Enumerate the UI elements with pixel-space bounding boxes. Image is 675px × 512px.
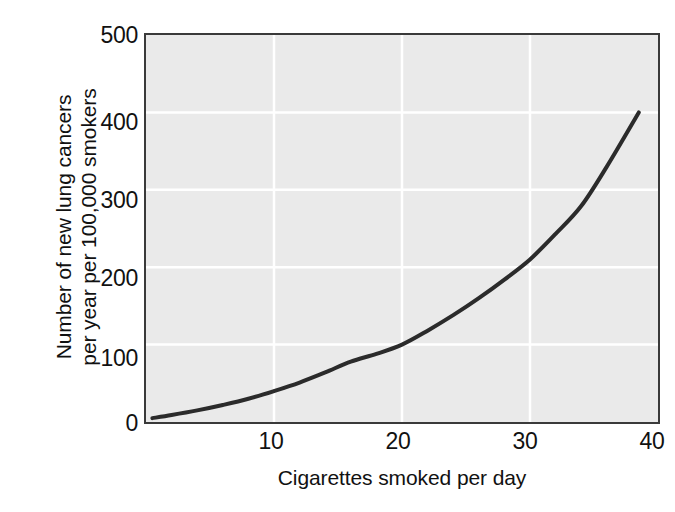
y-axis-tick-labels: 500 400 300 200 100 0	[82, 0, 138, 512]
y-tick-100: 100	[82, 345, 138, 372]
plot-svg	[146, 35, 658, 422]
y-tick-400: 400	[82, 109, 138, 136]
x-tick-10: 10	[259, 428, 284, 455]
gridlines	[146, 35, 658, 422]
x-axis-label: Cigarettes smoked per day	[144, 466, 660, 490]
chart-figure: Number of new lung cancers per year per …	[0, 0, 675, 512]
y-tick-200: 200	[82, 265, 138, 292]
y-tick-0: 0	[82, 410, 138, 437]
x-tick-30: 30	[513, 428, 538, 455]
y-tick-300: 300	[82, 187, 138, 214]
data-curve	[152, 112, 638, 418]
x-tick-20: 20	[386, 428, 411, 455]
y-axis-label-line-1: Number of new lung cancers	[52, 95, 77, 360]
y-tick-500: 500	[82, 22, 138, 49]
x-tick-40: 40	[640, 428, 665, 455]
plot-area	[144, 33, 660, 424]
